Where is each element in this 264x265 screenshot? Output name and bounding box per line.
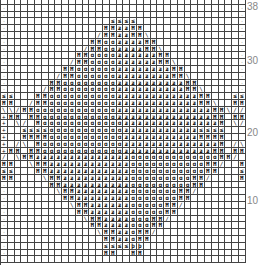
stitch-cell: ʑ [144,73,151,80]
stitch-cell [35,39,42,46]
stitch-cell [239,134,246,141]
stitch-cell [219,209,226,216]
stitch-cell [28,59,35,66]
stitch-cell [219,93,226,100]
stitch-cell [144,243,151,250]
stitch-cell: ɑ [62,93,69,100]
stitch-cell [35,243,42,250]
stitch-cell: Ħ [191,175,198,182]
stitch-cell: ɑ [144,195,151,202]
stitch-cell [42,39,49,46]
stitch-cell: \ [15,154,22,161]
stitch-cell: ≤ [110,243,117,250]
stitch-cell: Ħ [178,188,185,195]
stitch-cell [28,229,35,236]
stitch-cell: · [1,256,8,263]
stitch-cell: \ [1,107,8,114]
stitch-cell [191,250,198,257]
stitch-cell: ʑ [110,161,117,168]
stitch-cell [15,80,22,87]
stitch-cell [42,18,49,25]
stitch-cell: · [1,209,8,216]
stitch-cell: ɑ [49,127,56,134]
stitch-cell [219,195,226,202]
stitch-cell [219,243,226,250]
stitch-cell: ɑ [103,120,110,127]
stitch-cell: ɑ [76,107,83,114]
stitch-cell [212,188,219,195]
stitch-cell [191,12,198,19]
stitch-cell: ɑ [157,161,164,168]
stitch-cell [42,182,49,189]
stitch-cell: ʑ [178,114,185,121]
stitch-cell: Ħ [137,236,144,243]
stitch-cell [62,209,69,216]
stitch-cell: ≤ [35,127,42,134]
stitch-cell [225,52,232,59]
stitch-cell [103,12,110,19]
stitch-cell: ɑ [69,127,76,134]
stitch-cell: ɑ [83,127,90,134]
stitch-cell: Ħ [15,148,22,155]
stitch-cell [42,66,49,73]
stitch-cell: ≤ [212,127,219,134]
stitch-cell [225,141,232,148]
stitch-cell [219,188,226,195]
stitch-cell: ʑ [83,188,90,195]
stitch-cell: ʑ [164,73,171,80]
stitch-cell: ʑ [110,175,117,182]
stitch-cell: ɑ [89,86,96,93]
stitch-cell: Ħ [76,202,83,209]
stitch-cell [212,250,219,257]
stitch-cell [185,229,192,236]
stitch-cell [185,66,192,73]
stitch-cell: ɑ [144,175,151,182]
stitch-cell: Ħ [137,229,144,236]
stitch-cell: ʑ [110,222,117,229]
stitch-cell: ʑ [110,209,117,216]
stitch-cell: ɑ [96,73,103,80]
stitch-cell [164,25,171,32]
stitch-cell: ɑ [89,73,96,80]
stitch-cell: ɑ [103,114,110,121]
stitch-cell [164,236,171,243]
stitch-cell [178,229,185,236]
stitch-cell [178,18,185,25]
stitch-cell [219,182,226,189]
stitch-cell [212,25,219,32]
stitch-cell [15,12,22,19]
stitch-cell [8,86,15,93]
stitch-cell: ʑ [144,93,151,100]
stitch-cell [212,195,219,202]
stitch-cell [225,39,232,46]
stitch-cell: ʑ [137,120,144,127]
stitch-cell [117,256,124,263]
stitch-cell: ɑ [164,182,171,189]
stitch-cell [219,256,226,263]
stitch-cell: ʑ [164,127,171,134]
stitch-cell [89,243,96,250]
stitch-cell [157,18,164,25]
stitch-cell [35,80,42,87]
stitch-cell [49,5,56,12]
stitch-cell [69,250,76,257]
stitch-cell: ʑ [151,52,158,59]
stitch-cell [15,59,22,66]
stitch-cell: ʑ [144,86,151,93]
stitch-cell: ɑ [55,134,62,141]
stitch-cell [55,229,62,236]
stitch-cell: ʑ [151,114,158,121]
stitch-cell: Ħ [232,100,239,107]
stitch-cell: Ħ [110,250,117,257]
stitch-cell [212,66,219,73]
stitch-cell [191,216,198,223]
stitch-cell [35,222,42,229]
stitch-cell [219,5,226,12]
stitch-cell [103,256,110,263]
stitch-cell: ʑ [89,209,96,216]
stitch-cell [232,202,239,209]
stitch-cell [239,250,246,257]
stitch-cell [49,66,56,73]
stitch-cell [42,80,49,87]
stitch-cell: ʑ [117,182,124,189]
